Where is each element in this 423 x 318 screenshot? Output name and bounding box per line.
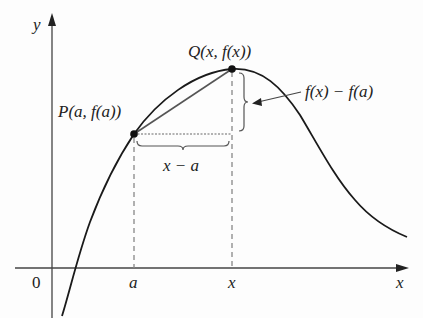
point-q-name: Q xyxy=(188,42,200,61)
point-p-name: P xyxy=(57,102,68,121)
point-p-coords: (a, f(a)) xyxy=(68,102,121,121)
horizontal-brace-icon xyxy=(137,141,229,150)
point-q-coords: (x, f(x)) xyxy=(200,42,251,61)
origin-label: 0 xyxy=(32,273,41,292)
point-p-label: P(a, f(a)) xyxy=(57,102,122,121)
x-axis-label: x xyxy=(395,273,404,292)
y-axis-label: y xyxy=(31,15,41,34)
rise-label: f(x) − f(a) xyxy=(305,82,373,101)
y-axis-arrow-icon xyxy=(48,13,56,26)
x-axis-arrow-icon xyxy=(396,264,409,272)
vertical-brace-icon xyxy=(239,73,248,131)
point-q xyxy=(228,65,236,73)
pointer-arrow-icon xyxy=(252,98,262,106)
point-q-label: Q(x, f(x)) xyxy=(188,42,252,61)
secant-line xyxy=(134,69,232,134)
pointer-arrow-line xyxy=(258,92,301,102)
tick-label-x: x xyxy=(227,273,236,292)
tick-label-a: a xyxy=(129,273,138,292)
point-p xyxy=(130,130,138,138)
secant-diagram: y x 0 a x P(a, f(a)) Q(x, f(x)) x − a f(… xyxy=(0,0,423,318)
run-label: x − a xyxy=(162,156,199,175)
